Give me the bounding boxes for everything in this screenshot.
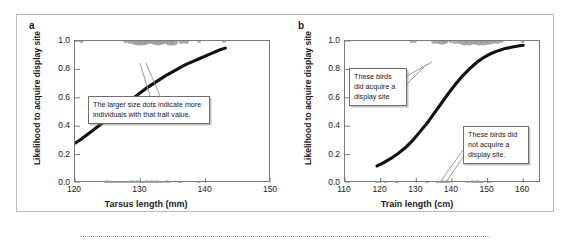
- callout-did-not-acquire: These birds did not acquire a display si…: [463, 126, 529, 164]
- panel-b-x-tick: 140: [438, 185, 464, 194]
- data-point: [135, 180, 141, 183]
- data-point: [178, 181, 182, 183]
- data-point: [384, 181, 388, 183]
- panel-b-x-tick: 130: [402, 185, 428, 194]
- panel-b-y-tick: 0.4: [316, 121, 340, 130]
- panel-b-y-tick: 0.6: [316, 93, 340, 102]
- panel-a-x-tick: 150: [257, 185, 283, 194]
- data-point: [520, 41, 524, 43]
- data-point: [196, 181, 200, 183]
- panel-a-x-tick: 140: [192, 185, 218, 194]
- data-point: [183, 41, 189, 44]
- panel-a-y-tick: 0.6: [46, 93, 70, 102]
- data-point: [121, 181, 125, 183]
- panel-b-x-axis-title: Train length (cm): [302, 199, 532, 209]
- panel-a-y-axis-title: Likelihood to acquire display site: [32, 28, 42, 168]
- panel-b: b Likelihood to acquire display site Tra…: [286, 15, 555, 213]
- data-point: [395, 181, 399, 183]
- data-point: [126, 181, 130, 183]
- data-point: [375, 181, 379, 183]
- panel-a-y-tick: 0.2: [46, 150, 70, 159]
- data-point: [123, 41, 127, 43]
- data-point: [110, 181, 114, 183]
- panel-a-x-tick: 130: [126, 185, 152, 194]
- panel-b-y-tick: 1.0: [316, 36, 340, 45]
- panel-a-y-tick: 0.8: [46, 64, 70, 73]
- data-point: [475, 180, 481, 183]
- data-point: [413, 41, 417, 43]
- panel-b-x-tick: 160: [509, 185, 535, 194]
- panel-a-y-tick: 0.4: [46, 121, 70, 130]
- data-point: [197, 41, 201, 43]
- panel-b-x-tick: 150: [474, 185, 500, 194]
- data-point: [466, 181, 470, 183]
- panel-b-y-tick: 0.2: [316, 150, 340, 159]
- panel-b-y-axis-title: Likelihood to acquire display site: [303, 28, 313, 168]
- panel-a-x-axis-title: Tarsus length (mm): [31, 199, 261, 209]
- panel-a-y-tick: 1.0: [46, 36, 70, 45]
- data-point: [160, 181, 164, 183]
- panel-b-x-tick: 120: [367, 185, 393, 194]
- data-point: [425, 181, 429, 183]
- data-point: [444, 180, 450, 183]
- figure-root: a Likelihood to acquire display site Tar…: [0, 0, 573, 245]
- data-point: [495, 41, 501, 44]
- callout-larger-dots: The larger size dots indicate more indiv…: [88, 96, 210, 124]
- data-point: [114, 181, 118, 183]
- data-point: [117, 181, 121, 183]
- panel-b-y-tick: 0.8: [316, 64, 340, 73]
- data-point: [488, 181, 492, 183]
- data-point: [222, 41, 226, 43]
- data-point: [130, 180, 136, 183]
- data-point: [140, 181, 144, 183]
- data-point: [409, 41, 413, 43]
- data-point: [104, 180, 110, 183]
- callout-did-acquire: These birds did acquire a display site: [349, 68, 407, 106]
- data-point: [80, 41, 84, 43]
- data-point: [436, 181, 440, 183]
- panel-b-x-tick: 110: [331, 185, 357, 194]
- data-point: [480, 181, 484, 183]
- data-point: [500, 41, 504, 43]
- panel-a-x-tick: 120: [61, 185, 87, 194]
- data-point: [164, 180, 170, 183]
- data-point: [448, 41, 452, 43]
- data-point: [154, 180, 160, 183]
- data-point: [149, 180, 155, 183]
- bottom-dotted-rule: [80, 236, 490, 238]
